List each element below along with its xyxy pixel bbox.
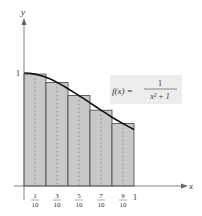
x-axis-arrow-icon <box>181 184 188 189</box>
x-tick-labels: 1 10 3 10 5 10 7 10 9 10 <box>31 192 127 209</box>
x-tick-num: 9 <box>121 192 125 200</box>
x-tick-num: 1 <box>33 192 37 200</box>
x-tick-den: 10 <box>98 201 106 209</box>
x-tick-num: 3 <box>55 192 59 200</box>
y-axis-label: y <box>20 7 25 17</box>
function-label: f(x) = 1 x² + 1 <box>112 79 177 101</box>
x-tick-den: 10 <box>76 201 84 209</box>
x-tick-den: 10 <box>54 201 62 209</box>
y-tick-1: 1 <box>16 69 20 78</box>
function-numerator: 1 <box>158 79 162 88</box>
y-axis-arrow-icon <box>22 18 27 25</box>
function-lhs: f(x) = <box>112 86 133 96</box>
x-tick-num: 7 <box>99 192 103 200</box>
x-tick-num: 5 <box>77 192 81 200</box>
x-tick-den: 10 <box>120 201 128 209</box>
x-axis-label: x <box>188 181 193 191</box>
x-end-label: 1 <box>133 193 137 202</box>
midpoint-rule-diagram: y x 1 1 10 3 10 5 10 7 10 9 10 1 f(x) = … <box>0 0 202 216</box>
x-tick-den: 10 <box>32 201 40 209</box>
function-denominator: x² + 1 <box>149 92 169 101</box>
